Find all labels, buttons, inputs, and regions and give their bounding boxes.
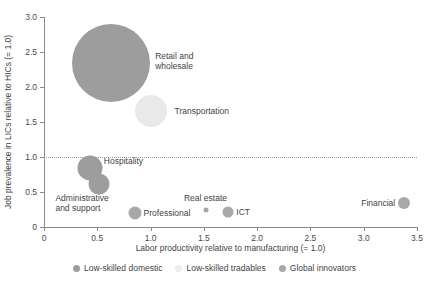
y-tick: [40, 157, 44, 158]
point-label-real-estate: Real estate: [184, 193, 227, 204]
point-label-ict: ICT: [236, 207, 250, 218]
bubble-real-estate[interactable]: [203, 207, 208, 212]
y-tick: [40, 17, 44, 18]
x-tick-label: 3.5: [411, 233, 423, 243]
x-axis-line: [44, 227, 417, 228]
point-label-transportation: Transportation: [175, 106, 230, 117]
y-axis-title-text: Job prevalence in LICs relative to HICs …: [3, 35, 13, 209]
bubble-retail-and-wholesale[interactable]: [72, 24, 150, 102]
x-tick: [364, 227, 365, 231]
x-tick: [44, 227, 45, 231]
legend-label: Low-skilled tradables: [186, 263, 265, 273]
x-tick: [204, 227, 205, 231]
y-tick-label: 0.5: [25, 187, 37, 197]
bubble-ict[interactable]: [223, 206, 234, 217]
x-tick: [257, 227, 258, 231]
y-axis-line: [44, 17, 45, 227]
x-tick-label: 2.5: [305, 233, 317, 243]
chart-legend: Low-skilled domesticLow-skilled tradable…: [0, 263, 429, 273]
legend-item-low-skilled-domestic[interactable]: Low-skilled domestic: [73, 263, 162, 273]
x-axis-title: Labor productivity relative to manufactu…: [44, 243, 417, 253]
y-tick-label: 2.5: [25, 47, 37, 57]
plot-area: 00.51.01.52.02.53.0 00.51.01.52.02.53.03…: [44, 17, 417, 227]
y-tick: [40, 122, 44, 123]
x-tick-label: 1.5: [198, 233, 210, 243]
y-tick: [40, 52, 44, 53]
legend-item-global-innovators[interactable]: Global innovators: [279, 263, 356, 273]
x-tick-label: 0.5: [91, 233, 103, 243]
bubble-chart: Job prevalence in LICs relative to HICs …: [0, 0, 429, 285]
scan-artifact: [0, 0, 429, 10]
point-label-financial: Financial: [361, 198, 395, 209]
y-tick-label: 1.0: [25, 152, 37, 162]
legend-marker-icon: [175, 265, 182, 272]
bubble-transportation[interactable]: [135, 95, 167, 127]
x-tick: [310, 227, 311, 231]
legend-label: Low-skilled domestic: [84, 263, 162, 273]
x-tick: [97, 227, 98, 231]
reference-line-1: [44, 157, 417, 158]
bubble-financial[interactable]: [398, 197, 410, 209]
point-label-professional: Professional: [144, 208, 191, 219]
y-axis-title: Job prevalence in LICs relative to HICs …: [2, 17, 14, 227]
x-tick: [417, 227, 418, 231]
bubble-administrative-and-support[interactable]: [89, 173, 110, 194]
y-tick-label: 1.5: [25, 117, 37, 127]
x-tick-label: 2.0: [251, 233, 263, 243]
legend-marker-icon: [73, 265, 80, 272]
y-tick: [40, 87, 44, 88]
x-tick-label: 1.0: [145, 233, 157, 243]
y-tick-label: 0: [32, 222, 37, 232]
bubble-professional[interactable]: [128, 207, 141, 220]
x-axis-title-text: Labor productivity relative to manufactu…: [136, 243, 326, 253]
y-tick: [40, 192, 44, 193]
x-tick-label: 0: [42, 233, 47, 243]
y-tick-label: 3.0: [25, 12, 37, 22]
legend-label: Global innovators: [290, 263, 356, 273]
y-tick-label: 2.0: [25, 82, 37, 92]
legend-marker-icon: [279, 265, 286, 272]
x-tick: [151, 227, 152, 231]
legend-item-low-skilled-tradables[interactable]: Low-skilled tradables: [175, 263, 265, 273]
point-label-administrative-and-support: Administrative and support: [55, 193, 108, 214]
x-tick-label: 3.0: [358, 233, 370, 243]
point-label-hospitality: Hospitality: [104, 156, 143, 167]
point-label-retail-and-wholesale: Retail and wholesale: [155, 51, 193, 72]
